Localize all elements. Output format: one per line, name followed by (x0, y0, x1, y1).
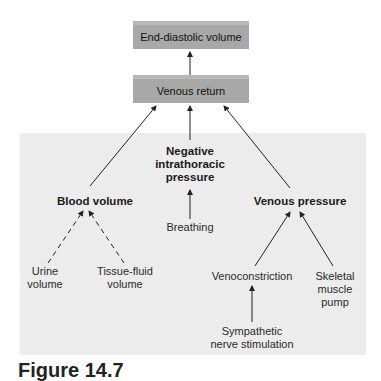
breathing-label: Breathing (155, 221, 225, 234)
arrow-urine-to-blood-volume (48, 211, 83, 263)
arrow-venoconstriction-to-venous-pressure (255, 212, 290, 266)
urine-volume-label: Urine volume (20, 265, 70, 291)
arrow-tissue-fluid-to-blood-volume (89, 211, 124, 263)
sympathetic-nerve-stimulation-label: Sympathetic nerve stimulation (200, 325, 304, 351)
blood-volume-label: Blood volume (50, 195, 140, 208)
figure-caption: Figure 14.7 (18, 360, 124, 380)
venoconstriction-label: Venoconstriction (210, 270, 294, 283)
tissue-fluid-volume-label: Tissue-fluid volume (90, 265, 160, 291)
arrow-muscle-pump-to-venous-pressure (300, 212, 333, 266)
negative-intrathoracic-pressure-label: Negative intrathoracic pressure (140, 145, 240, 184)
skeletal-muscle-pump-label: Skeletal muscle pump (310, 270, 360, 309)
venous-pressure-label: Venous pressure (250, 195, 350, 208)
